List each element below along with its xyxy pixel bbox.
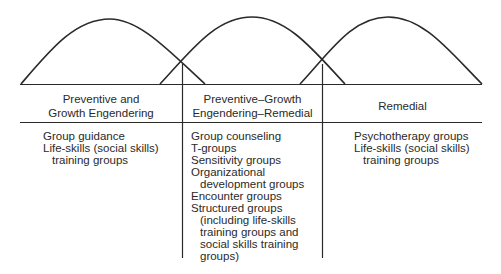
header-preventive-growth-remedial: Preventive–Growth Engendering–Remedial [183, 92, 322, 120]
list-item: Life-skills (social skills) training gro… [43, 142, 159, 166]
header-preventive-growth: Preventive and Growth Engendering [20, 92, 182, 120]
curve-remedial [300, 17, 482, 84]
list-item: Encounter groups [191, 190, 304, 202]
list-preventive-growth: Group guidance Life-skills (social skill… [43, 130, 159, 166]
item-text: Group counseling [191, 130, 304, 142]
item-text: social skills training [191, 238, 304, 250]
list-item: Group counseling [191, 130, 304, 142]
header-line: Preventive and [20, 92, 182, 106]
item-text: Encounter groups [191, 190, 304, 202]
item-text: Sensitivity groups [191, 154, 304, 166]
header-line: Preventive–Growth [183, 92, 322, 106]
list-item: Sensitivity groups [191, 154, 304, 166]
curve-preventive-growth-remedial [160, 17, 345, 84]
item-text: Psychotherapy groups [354, 130, 470, 142]
item-text: development groups [191, 178, 304, 190]
header-remedial: Remedial [323, 99, 482, 113]
item-text: Life-skills (social skills) [43, 142, 159, 154]
item-text: training groups [43, 154, 159, 166]
list-item: Life-skills (social skills) training gro… [354, 142, 470, 166]
header-line: Engendering–Remedial [183, 106, 322, 120]
item-text: training groups [354, 154, 470, 166]
curve-preventive-growth [21, 19, 205, 84]
item-text: Group guidance [43, 130, 159, 142]
item-text: Life-skills (social skills) [354, 142, 470, 154]
item-text: Structured groups [191, 202, 304, 214]
list-item: Organizational development groups [191, 166, 304, 190]
list-preventive-growth-remedial: Group counseling T-groups Sensitivity gr… [191, 130, 304, 262]
item-text: Organizational [191, 166, 304, 178]
list-item: Structured groups (including life-skills… [191, 202, 304, 262]
list-item: Psychotherapy groups [354, 130, 470, 142]
header-line: Remedial [323, 99, 482, 113]
list-item: T-groups [191, 142, 304, 154]
item-text: (including life-skills [191, 214, 304, 226]
item-text: groups) [191, 250, 304, 262]
item-text: T-groups [191, 142, 304, 154]
list-remedial: Psychotherapy groups Life-skills (social… [354, 130, 470, 166]
list-item: Group guidance [43, 130, 159, 142]
item-text: training groups and [191, 226, 304, 238]
header-line: Growth Engendering [20, 106, 182, 120]
